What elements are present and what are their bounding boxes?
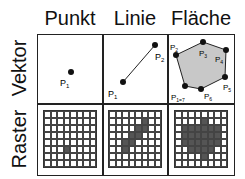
raster-cell — [90, 125, 97, 132]
area-diagram: P1=7 P2 P3 P4 P5 P6 — [168, 35, 234, 103]
raster-cell — [221, 139, 228, 146]
raster-cell — [221, 160, 228, 167]
raster-cell — [221, 111, 228, 118]
raster-cell — [155, 118, 162, 125]
row-title-raster: Raster — [8, 106, 30, 172]
label-p2: P2 — [170, 43, 178, 53]
label-p5: P5 — [223, 83, 231, 93]
label-p2: P2 — [155, 52, 165, 63]
raster-cell — [221, 132, 228, 139]
line-diagram: P1 P2 — [103, 35, 167, 103]
column-title-linie: Linie — [102, 7, 168, 29]
raster-cell — [155, 153, 162, 160]
raster-area-grid — [174, 110, 228, 168]
label-p1: P1 — [108, 89, 118, 100]
column-title-punkt: Punkt — [37, 7, 103, 29]
raster-cell — [155, 146, 162, 153]
raster-cell — [155, 139, 162, 146]
raster-cell — [90, 146, 97, 153]
raster-cell — [155, 125, 162, 132]
raster-cell — [221, 125, 228, 132]
raster-cell — [90, 111, 97, 118]
comparison-table: P1 P1 P2 P1=7 P2 P3 P4 P5 P6 — [37, 34, 235, 176]
label-p6: P6 — [204, 92, 212, 102]
column-title-flaeche: Fläche — [168, 7, 234, 29]
raster-cell — [90, 139, 97, 146]
point-diagram: P1 — [38, 35, 102, 103]
raster-line-grid — [108, 110, 162, 168]
raster-cell — [90, 118, 97, 125]
raster-cell — [155, 111, 162, 118]
raster-cell — [155, 160, 162, 167]
raster-cell — [221, 118, 228, 125]
raster-cell — [90, 153, 97, 160]
vector-area-cell: P1=7 P2 P3 P4 P5 P6 — [168, 35, 234, 103]
raster-cell — [155, 132, 162, 139]
raster-cell — [221, 153, 228, 160]
raster-point-grid — [43, 110, 97, 168]
raster-cell — [90, 132, 97, 139]
raster-cell — [90, 160, 97, 167]
row-title-vektor: Vektor — [8, 35, 30, 101]
vector-line-cell: P1 P2 — [103, 35, 167, 103]
label-p1-7: P1=7 — [171, 93, 185, 103]
raster-cell — [221, 146, 228, 153]
label-p1: P1 — [60, 78, 70, 89]
vector-point-cell: P1 — [38, 35, 102, 103]
divider — [38, 103, 234, 105]
